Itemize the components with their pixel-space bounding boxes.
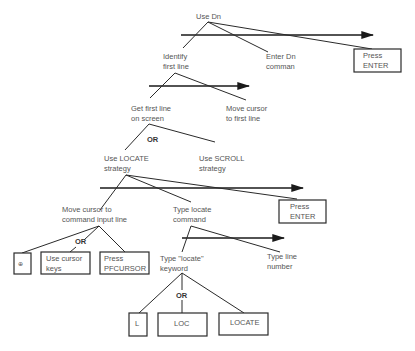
edge: [84, 226, 99, 240]
node-keyword-loc: LOC: [174, 319, 189, 329]
diagram-canvas: [0, 0, 415, 351]
node-enter-dn-command: Enter Dn comman: [266, 52, 296, 72]
edge: [191, 226, 280, 252]
edge: [70, 247, 76, 252]
edge: [149, 124, 215, 142]
node-press-enter-1: Press ENTER: [363, 51, 388, 71]
label-line: Type line: [267, 252, 297, 262]
label-line: Press: [363, 51, 388, 61]
label-line: Type "locate": [160, 254, 204, 264]
edge: [99, 226, 125, 252]
label-line: keyword: [160, 264, 204, 274]
edge: [126, 175, 297, 199]
node-use-dn: Use Dn: [196, 12, 221, 22]
label-line: ENTER: [290, 212, 315, 222]
node-type-line-number: Type line number: [267, 252, 297, 272]
or-connector: OR: [176, 291, 187, 300]
node-identify-first-line: Identify first line: [163, 52, 189, 72]
label-line: to first line: [226, 114, 267, 124]
label-line: Move cursor: [226, 104, 267, 114]
label-line: ENTER: [363, 61, 388, 71]
edge: [125, 124, 149, 150]
or-connector: OR: [75, 237, 86, 246]
node-keyword-locate: LOCATE: [230, 318, 259, 328]
edge: [182, 226, 191, 252]
edge: [22, 226, 99, 253]
label-line: strategy: [104, 164, 149, 174]
key-symbol-icon: ⊕: [18, 259, 23, 269]
or-connector: OR: [147, 135, 158, 144]
node-move-cursor-first-line: Move cursor to first line: [226, 104, 267, 124]
edge: [182, 273, 244, 313]
label-line: comman: [266, 62, 296, 72]
label-line: Press: [290, 202, 315, 212]
label-line: strategy: [199, 164, 244, 174]
label-line: Enter Dn: [266, 52, 296, 62]
node-type-locate-command: Type locate command: [173, 205, 211, 225]
node-get-first-line: Get first line on screen: [131, 104, 171, 124]
label-line: on screen: [131, 114, 171, 124]
label-line: keys: [46, 264, 82, 274]
label-line: command input line: [62, 215, 127, 225]
label-line: first line: [163, 62, 189, 72]
label-line: number: [267, 262, 297, 272]
label-line: Get first line: [131, 104, 171, 114]
node-press-enter-2: Press ENTER: [290, 202, 315, 222]
node-press-pfcursor: Press PFCURSOR: [104, 254, 146, 274]
node-keyword-l: L: [135, 319, 139, 329]
label-line: Use SCROLL: [199, 154, 244, 164]
node-move-cursor-command-line: Move cursor to command input line: [62, 205, 127, 225]
label-line: Type locate: [173, 205, 211, 215]
node-use-scroll-strategy: Use SCROLL strategy: [199, 154, 244, 174]
label-line: Use cursor: [46, 254, 82, 264]
node-type-locate-keyword: Type "locate" keyword: [160, 254, 204, 274]
label-line: Identify: [163, 52, 189, 62]
label-line: command: [173, 215, 211, 225]
label-line: Press: [104, 254, 146, 264]
label-line: Use LOCATE: [104, 154, 149, 164]
label-line: PFCURSOR: [104, 264, 146, 274]
label-line: Move cursor to: [62, 205, 127, 215]
node-use-cursor-keys: Use cursor keys: [46, 254, 82, 274]
node-use-locate-strategy: Use LOCATE strategy: [104, 154, 149, 174]
